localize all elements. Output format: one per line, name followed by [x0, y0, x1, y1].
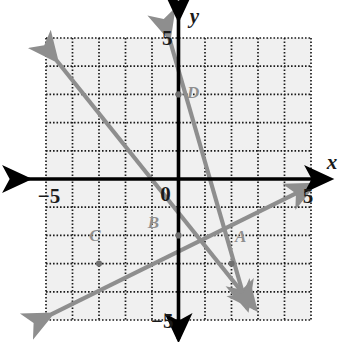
point-label-D: D: [186, 83, 199, 102]
origin-label: 0: [160, 182, 171, 206]
x-axis-max-label: 5: [303, 184, 314, 208]
x-axis-name: x: [326, 150, 338, 174]
y-axis-max-label: 5: [162, 26, 173, 50]
point-label-C: C: [89, 226, 101, 245]
point-marker-C: [96, 261, 102, 267]
point-marker-D: [175, 91, 181, 97]
x-axis-min-label: −5: [38, 184, 60, 208]
point-label-B: B: [147, 213, 159, 232]
graph-canvas: ABCD −5 5 5 −5 0 x y: [0, 0, 345, 342]
coordinate-plane-figure: ABCD −5 5 5 −5 0 x y: [0, 0, 345, 342]
point-label-A: A: [234, 227, 246, 246]
point-marker-A: [228, 261, 234, 267]
y-axis-min-label: −5: [151, 309, 173, 333]
point-marker-B: [175, 232, 181, 238]
